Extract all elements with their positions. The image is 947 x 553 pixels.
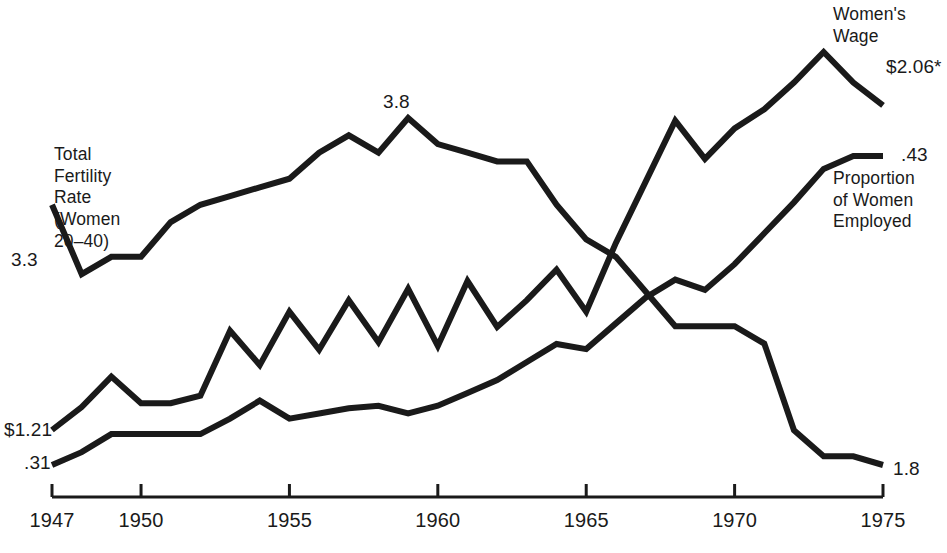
x-axis-tick-label-1965: 1965 [564, 508, 609, 533]
series-label-total-fertility-rate: Total Fertility Rate (Women 20–40) [54, 144, 120, 252]
x-axis-tick-label-1947: 1947 [30, 508, 75, 533]
value-label-wage-end: $2.06* [886, 55, 942, 79]
chart-plot-area [0, 0, 947, 553]
chart-container: Total Fertility Rate (Women 20–40) 3.3 3… [0, 0, 947, 553]
x-axis [52, 484, 883, 497]
value-label-tfr-end: 1.8 [893, 457, 920, 481]
series-line-3 [52, 156, 883, 465]
series-line-1 [52, 118, 883, 465]
value-label-proportion-start: .31 [24, 451, 51, 475]
series-lines [52, 52, 883, 465]
series-label-womens-wage: Women's Wage [833, 4, 906, 47]
x-axis-tick-label-1950: 1950 [119, 508, 164, 533]
value-label-tfr-peak: 3.8 [383, 90, 410, 114]
series-label-proportion-of-women-employed: Proportion of Women Employed [833, 168, 915, 233]
value-label-proportion-end: .43 [901, 143, 928, 167]
x-axis-tick-label-1960: 1960 [415, 508, 460, 533]
x-axis-tick-label-1975: 1975 [861, 508, 906, 533]
x-axis-tick-label-1955: 1955 [267, 508, 312, 533]
x-axis-tick-label-1970: 1970 [712, 508, 757, 533]
value-label-tfr-start: 3.3 [11, 248, 38, 272]
value-label-wage-start: $1.21 [4, 418, 52, 442]
